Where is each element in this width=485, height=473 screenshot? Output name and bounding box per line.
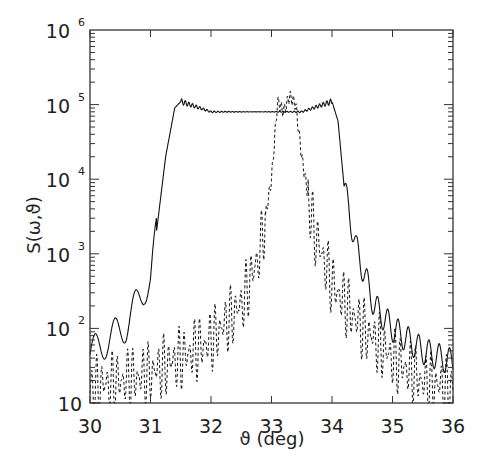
y-tick-label: 104 — [46, 165, 85, 191]
chart-figure: 30313233343536 10610510410310210 ϑ (deg)… — [0, 0, 485, 473]
y-axis-label: S(ω,ϑ) — [23, 196, 44, 253]
x-tick-label: 30 — [78, 415, 102, 437]
svg-text:10: 10 — [46, 169, 70, 191]
svg-text:10: 10 — [58, 393, 82, 415]
y-tick-labels: 10610510410310210 — [46, 16, 85, 415]
y-tick-label: 103 — [46, 240, 85, 266]
log-plot: 30313233343536 10610510410310210 ϑ (deg)… — [0, 0, 485, 473]
plot-frame — [90, 30, 453, 403]
x-tick-label: 34 — [320, 415, 344, 437]
x-axis-label: ϑ (deg) — [240, 428, 305, 449]
dashed-curve — [90, 91, 453, 403]
x-tick-label: 35 — [380, 415, 404, 437]
solid-curve — [90, 99, 453, 373]
y-tick-label: 105 — [46, 91, 85, 117]
x-tick-label: 31 — [138, 415, 162, 437]
axis-ticks — [90, 30, 453, 403]
svg-text:4: 4 — [78, 165, 85, 178]
curves — [90, 91, 453, 403]
svg-text:10: 10 — [46, 244, 70, 266]
svg-text:2: 2 — [78, 314, 85, 327]
y-tick-label: 102 — [46, 314, 85, 340]
svg-text:10: 10 — [46, 318, 70, 340]
y-tick-label: 106 — [46, 16, 85, 42]
svg-text:10: 10 — [46, 95, 70, 117]
y-tick-label: 10 — [58, 393, 82, 415]
svg-text:10: 10 — [46, 20, 70, 42]
svg-text:5: 5 — [78, 91, 85, 104]
x-tick-label: 32 — [199, 415, 223, 437]
x-tick-label: 36 — [441, 415, 465, 437]
svg-text:6: 6 — [78, 16, 85, 29]
svg-text:3: 3 — [78, 240, 85, 253]
